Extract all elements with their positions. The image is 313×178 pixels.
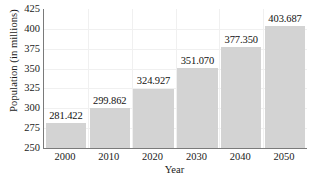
bar-value-label: 324.927 bbox=[127, 76, 179, 87]
bar-chart: Population (in millions) 250275300325350… bbox=[0, 0, 313, 178]
bar bbox=[265, 26, 305, 148]
x-axis-tick-labels: 200020102020203020402050 bbox=[43, 151, 306, 165]
bar bbox=[221, 47, 261, 148]
plot-area: 281.422299.862324.927351.070377.350403.6… bbox=[43, 9, 307, 149]
x-axis-tick-label: 2030 bbox=[175, 151, 219, 163]
bar-value-label: 299.862 bbox=[84, 96, 136, 107]
bar-value-label: 281.422 bbox=[40, 111, 92, 122]
x-axis-title: Year bbox=[43, 164, 306, 175]
x-axis-tick-label: 2020 bbox=[131, 151, 175, 163]
x-axis-tick-label: 2010 bbox=[87, 151, 131, 163]
y-axis-tick-label: 425 bbox=[14, 4, 40, 15]
y-axis-tick-label: 400 bbox=[14, 24, 40, 35]
bar bbox=[46, 123, 86, 148]
x-axis-tick-label: 2000 bbox=[43, 151, 87, 163]
y-axis-tick-label: 375 bbox=[14, 43, 40, 54]
x-axis-tick-label: 2050 bbox=[262, 151, 306, 163]
bar bbox=[133, 89, 173, 149]
y-axis-tick-label: 325 bbox=[14, 83, 40, 94]
bar bbox=[90, 108, 130, 148]
y-axis-tick-label: 275 bbox=[14, 123, 40, 134]
y-axis-tick-labels: 250275300325350375400425 bbox=[14, 0, 40, 178]
y-axis-tick-label: 250 bbox=[14, 143, 40, 154]
bar bbox=[177, 68, 217, 148]
bar-value-label: 351.070 bbox=[171, 56, 223, 67]
y-axis-tick-label: 300 bbox=[14, 103, 40, 114]
x-axis-tick-label: 2040 bbox=[218, 151, 262, 163]
bar-value-label: 403.687 bbox=[259, 14, 311, 25]
y-axis-tick-label: 350 bbox=[14, 63, 40, 74]
bar-value-label: 377.350 bbox=[215, 35, 267, 46]
bars-layer: 281.422299.862324.927351.070377.350403.6… bbox=[44, 9, 307, 148]
